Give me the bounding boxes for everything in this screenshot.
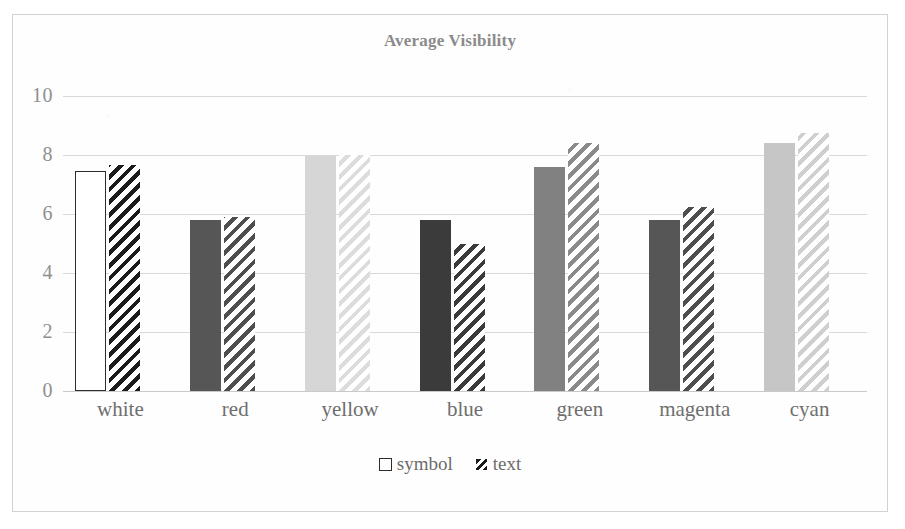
bar-group-yellow xyxy=(293,96,408,391)
x-tick-label-green: green xyxy=(522,397,637,422)
bar-white-text[interactable] xyxy=(109,165,140,391)
bar-group-blue xyxy=(408,96,523,391)
bar-yellow-text[interactable] xyxy=(339,155,370,391)
x-tick-label-blue: blue xyxy=(408,397,523,422)
bar-magenta-symbol[interactable] xyxy=(649,220,680,391)
chart-legend: symbol text xyxy=(13,453,887,475)
bar-red-symbol[interactable] xyxy=(190,220,221,391)
bar-cyan-symbol[interactable] xyxy=(764,143,795,391)
legend-item-text[interactable]: text xyxy=(475,453,522,475)
bar-groups xyxy=(63,96,867,391)
x-tick-label-cyan: cyan xyxy=(752,397,867,422)
legend-label-text: text xyxy=(493,453,522,475)
bar-yellow-symbol[interactable] xyxy=(305,155,336,391)
bar-group-red xyxy=(178,96,293,391)
bar-green-text[interactable] xyxy=(568,143,599,391)
bar-group-magenta xyxy=(637,96,752,391)
bar-green-symbol[interactable] xyxy=(534,167,565,391)
y-tick-label-6: 6 xyxy=(0,202,53,225)
y-tick-label-0: 0 xyxy=(0,379,53,402)
bar-blue-symbol[interactable] xyxy=(420,220,451,391)
hatched-square-icon xyxy=(475,458,488,471)
bar-group-cyan xyxy=(752,96,867,391)
chart-title: Average Visibility xyxy=(13,31,887,51)
x-tick-label-magenta: magenta xyxy=(637,397,752,422)
legend-label-symbol: symbol xyxy=(397,453,453,475)
x-tick-label-yellow: yellow xyxy=(293,397,408,422)
bar-group-white xyxy=(63,96,178,391)
legend-item-symbol[interactable]: symbol xyxy=(379,453,453,475)
bar-cyan-text[interactable] xyxy=(798,133,829,391)
y-tick-label-8: 8 xyxy=(0,143,53,166)
bar-group-green xyxy=(522,96,637,391)
white-square-outline-icon xyxy=(379,458,392,471)
x-tick-label-white: white xyxy=(63,397,178,422)
x-tick-label-red: red xyxy=(178,397,293,422)
y-tick-label-4: 4 xyxy=(0,261,53,284)
gridline-0 xyxy=(63,391,867,392)
plot-area: 0246810 xyxy=(63,96,867,391)
chart-frame: Average Visibility 0246810 whiteredyello… xyxy=(12,14,888,512)
y-tick-label-10: 10 xyxy=(0,84,53,107)
bar-magenta-text[interactable] xyxy=(683,207,714,391)
bar-red-text[interactable] xyxy=(224,217,255,391)
y-tick-label-2: 2 xyxy=(0,320,53,343)
bar-white-symbol[interactable] xyxy=(75,171,106,391)
bar-blue-text[interactable] xyxy=(454,244,485,392)
x-axis-category-labels: whiteredyellowbluegreenmagentacyan xyxy=(63,397,867,431)
